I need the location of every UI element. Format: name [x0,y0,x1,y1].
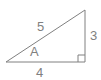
hypotenuse-length-label: 5 [37,20,44,33]
base-leg-length-label: 4 [36,66,43,79]
triangle-outline [6,10,85,62]
right-triangle-figure: 5 3 A 4 [0,0,101,80]
vertical-leg-length-label: 3 [90,29,97,42]
angle-a-label: A [30,45,39,58]
right-angle-marker-icon [78,55,85,62]
triangle-drawing [0,0,101,80]
